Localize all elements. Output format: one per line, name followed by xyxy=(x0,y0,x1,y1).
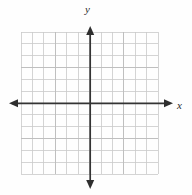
y-axis-down-arrowhead xyxy=(86,180,94,189)
x-axis-left-arrowhead xyxy=(9,99,18,107)
x-axis-right-arrowhead xyxy=(164,99,173,107)
y-axis-up-arrowhead xyxy=(86,26,94,35)
x-axis-label: x xyxy=(177,100,182,111)
coordinate-plane-svg xyxy=(0,0,192,195)
y-axis-label: y xyxy=(85,4,90,15)
coordinate-plane-figure: y x xyxy=(0,0,192,195)
